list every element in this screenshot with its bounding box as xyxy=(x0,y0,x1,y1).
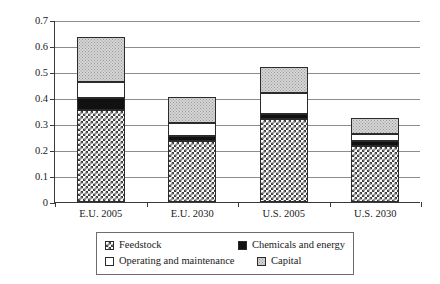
legend-row: Operating and maintenance Capital xyxy=(105,253,345,269)
legend-swatch-capital-icon xyxy=(257,257,266,266)
bar-segment-feedstock xyxy=(351,146,399,202)
y-tick-mark xyxy=(50,73,55,74)
bar-segment-capital xyxy=(77,37,125,83)
x-tick-label-u-s-2005: U.S. 2005 xyxy=(263,209,305,220)
y-tick-mark xyxy=(50,177,55,178)
bar-segment-chemicals-and-energy xyxy=(351,141,399,146)
legend-swatch-feedstock-icon xyxy=(105,241,114,250)
y-tick-label: 0.4 xyxy=(35,94,48,105)
y-tick-mark xyxy=(50,125,55,126)
legend-swatch-operating-icon xyxy=(105,257,114,266)
bar-segment-chemicals-and-energy xyxy=(260,114,308,119)
x-tick-label-e-u-2005: E.U. 2005 xyxy=(79,209,122,220)
legend-label: Feedstock xyxy=(119,240,162,251)
x-tick-label-e-u-2030: E.U. 2030 xyxy=(171,209,214,220)
chart-legend: Feedstock Chemicals and energy Operating… xyxy=(96,232,354,275)
bar-segment-operating-and-maintenance xyxy=(168,123,216,136)
legend-row: Feedstock Chemicals and energy xyxy=(105,237,345,253)
legend-item-feedstock: Feedstock xyxy=(105,240,238,251)
y-tick-label: 0.7 xyxy=(35,16,48,27)
plot-area: 00.10.20.30.40.50.60.7 E.U. 2005E.U. 203… xyxy=(54,21,420,203)
legend-label: Operating and maintenance xyxy=(119,256,234,267)
bar-segment-operating-and-maintenance xyxy=(260,93,308,114)
y-tick-mark xyxy=(50,47,55,48)
legend-item-chemicals-and-energy: Chemicals and energy xyxy=(238,240,345,251)
bar-segment-operating-and-maintenance xyxy=(351,134,399,141)
bar-segment-chemicals-and-energy xyxy=(77,98,125,110)
bar-segment-capital xyxy=(351,118,399,135)
y-tick-label: 0 xyxy=(43,198,48,209)
bar-segment-feedstock xyxy=(260,119,308,202)
bar-segment-capital xyxy=(168,97,216,123)
x-tick-mark xyxy=(421,202,422,207)
y-tick-label: 0.3 xyxy=(35,120,48,131)
y-tick-mark xyxy=(50,21,55,22)
x-tick-mark xyxy=(330,202,331,207)
bar-u-s-2030 xyxy=(351,118,399,203)
legend-label: Capital xyxy=(271,256,301,267)
bar-u-s-2005 xyxy=(260,67,308,202)
y-tick-mark xyxy=(50,151,55,152)
x-tick-mark xyxy=(147,202,148,207)
bar-segment-feedstock xyxy=(168,141,216,202)
chart-figure: Cost ($/liter diesel equivalent) 00.10.2… xyxy=(0,0,440,284)
bar-e-u-2005 xyxy=(77,37,125,202)
y-tick-label: 0.6 xyxy=(35,42,48,53)
y-tick-label: 0.1 xyxy=(35,172,48,183)
x-tick-label-u-s-2030: U.S. 2030 xyxy=(354,209,396,220)
x-tick-mark xyxy=(238,202,239,207)
legend-item-operating-and-maintenance: Operating and maintenance xyxy=(105,256,257,267)
gridline xyxy=(55,21,420,22)
bar-e-u-2030 xyxy=(168,97,216,202)
legend-item-capital: Capital xyxy=(257,256,301,267)
bar-segment-capital xyxy=(260,67,308,93)
bar-segment-feedstock xyxy=(77,110,125,202)
y-tick-mark xyxy=(50,99,55,100)
bar-segment-chemicals-and-energy xyxy=(168,136,216,141)
x-tick-mark xyxy=(55,202,56,207)
y-tick-label: 0.2 xyxy=(35,146,48,157)
y-tick-label: 0.5 xyxy=(35,68,48,79)
legend-swatch-chemicals-icon xyxy=(238,241,247,250)
bar-segment-operating-and-maintenance xyxy=(77,82,125,98)
legend-label: Chemicals and energy xyxy=(252,240,345,251)
